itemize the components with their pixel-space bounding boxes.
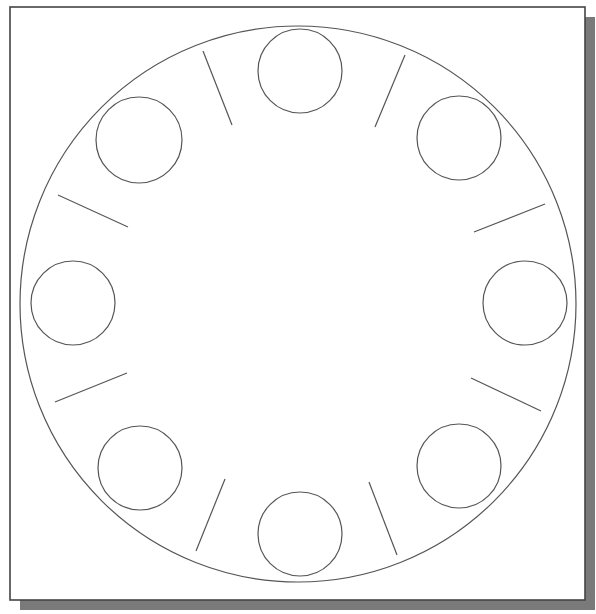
diagram-canvas [0, 0, 596, 614]
drawing-frame [10, 7, 585, 600]
circular-plate-drawing [0, 0, 596, 614]
